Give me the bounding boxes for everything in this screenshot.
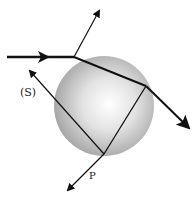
- label-p: P: [89, 170, 96, 181]
- droplet-sphere: [54, 56, 154, 156]
- ray-p: [68, 154, 104, 190]
- diagram-canvas: (S) P: [0, 0, 195, 197]
- reflected-ray: [74, 11, 99, 57]
- label-s: (S): [20, 86, 36, 99]
